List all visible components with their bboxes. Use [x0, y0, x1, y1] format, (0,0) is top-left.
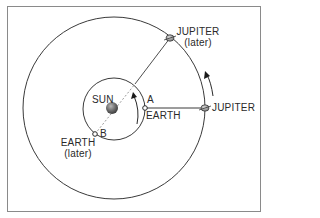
earth-later-subtitle: (later)	[58, 148, 98, 159]
arrowhead-icon	[204, 71, 210, 79]
sun-label: SUN	[92, 94, 114, 105]
earth-later-label: EARTH (later)	[58, 137, 98, 159]
point-a-label: A	[147, 94, 154, 105]
jupiter-motion-arrow	[207, 75, 213, 96]
jupiter-later-subtitle: (later)	[176, 37, 220, 48]
jupiter-later-title: JUPITER	[176, 26, 220, 37]
jupiter-label: JUPITER	[212, 102, 255, 113]
arrowhead-icon	[131, 92, 137, 99]
earth-later-title: EARTH	[58, 137, 98, 148]
earth-b-marker	[93, 132, 98, 137]
sightline-later	[135, 38, 170, 84]
jupiter-later-label: JUPITER (later)	[176, 26, 220, 48]
point-b-label: B	[100, 128, 107, 139]
earth-motion-arrow	[134, 96, 138, 124]
jupiter-icon	[199, 105, 211, 111]
earth-label: EARTH	[146, 110, 181, 121]
